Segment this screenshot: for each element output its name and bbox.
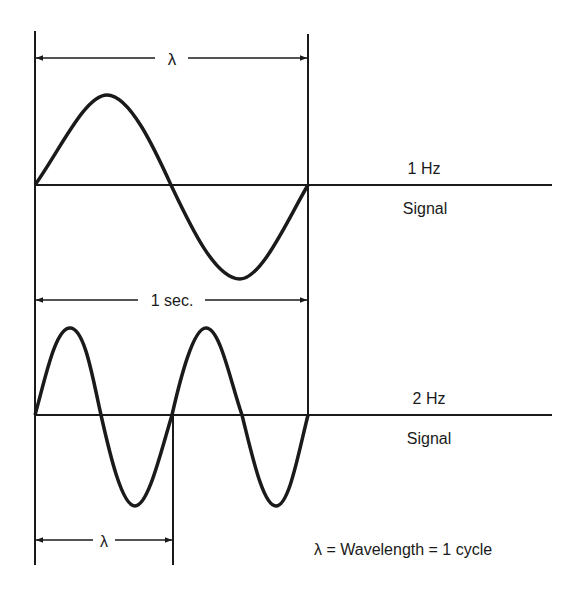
top-wavelength-label: λ	[168, 50, 177, 69]
wavelength-diagram: λ 1 Hz Signal 1 sec. 2 Hz Signal λ λ = W…	[0, 0, 573, 596]
one-second-label: 1 sec.	[151, 292, 194, 309]
bottom-wavelength-dimension: λ	[36, 533, 172, 550]
signal-caption-2hz: Signal	[407, 430, 451, 447]
sine-wave-2hz	[35, 328, 308, 506]
top-wavelength-dimension: λ	[36, 50, 307, 69]
wavelength-legend: λ = Wavelength = 1 cycle	[314, 541, 492, 558]
sine-wave-1hz	[35, 95, 308, 279]
frequency-label-2hz: 2 Hz	[413, 390, 446, 407]
bottom-wavelength-label: λ	[100, 533, 108, 550]
frequency-label-1hz: 1 Hz	[408, 160, 441, 177]
one-second-dimension: 1 sec.	[36, 292, 307, 309]
signal-caption-1hz: Signal	[403, 200, 447, 217]
